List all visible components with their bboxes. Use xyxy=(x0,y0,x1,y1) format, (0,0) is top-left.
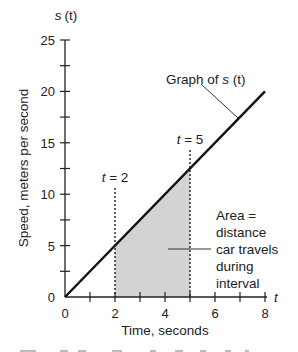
area-label-line: during xyxy=(216,259,254,274)
area-label-line: interval xyxy=(216,276,260,291)
t2-label: t = 2 xyxy=(102,170,129,185)
area-label-line: car travels xyxy=(216,242,279,257)
area-label-line: distance xyxy=(216,225,266,240)
graph-label: Graph of s (t) xyxy=(166,72,246,87)
area-annotation: Area = distance car travels during inter… xyxy=(216,208,279,291)
y-tick-label: 15 xyxy=(41,136,55,151)
x-axis-title: Time, seconds xyxy=(121,323,209,338)
x-tick-labels: 0 2 4 6 8 xyxy=(61,306,268,321)
x-tick-label: 4 xyxy=(161,306,168,321)
y-axis-title: Speed, meters per second xyxy=(16,89,31,247)
y-tick-label: 10 xyxy=(41,187,55,202)
y-tick-label: 5 xyxy=(48,239,55,254)
speed-time-chart: 0 5 10 15 20 25 0 2 4 6 8 s(t) t Time, s… xyxy=(0,0,298,352)
y-tick-labels: 0 5 10 15 20 25 xyxy=(41,33,55,305)
y-axis-variable: s(t) xyxy=(55,8,78,23)
x-tick-label: 8 xyxy=(261,306,268,321)
x-tick-label: 2 xyxy=(111,306,118,321)
x-axis-variable: t xyxy=(274,290,279,305)
y-tick-label: 0 xyxy=(48,290,55,305)
x-tick-label: 0 xyxy=(61,306,68,321)
graph-label-leader xyxy=(201,84,238,118)
area-label-line: Area = xyxy=(216,208,256,223)
y-tick-label: 25 xyxy=(41,33,55,48)
x-tick-label: 6 xyxy=(211,306,218,321)
t5-label: t = 5 xyxy=(177,132,204,147)
y-tick-label: 20 xyxy=(41,84,55,99)
